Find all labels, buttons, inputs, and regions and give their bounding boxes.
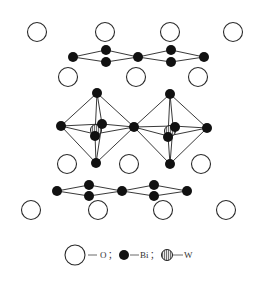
legend: O ； Bi ； W (65, 245, 193, 265)
oxygen-atom-icon (120, 155, 139, 174)
bismuth-atom-icon (165, 89, 175, 99)
bismuth-atom-icon (166, 45, 176, 55)
oxygen-atom-icon (89, 201, 108, 220)
oxygen-atom-icon (154, 201, 173, 220)
oxygen-row-second (59, 68, 208, 87)
bismuth-atom-icon (202, 123, 212, 133)
bismuth-atom-icon (101, 45, 111, 55)
bismuth-atom-icon (52, 186, 62, 196)
bismuth-atom-icon (165, 159, 175, 169)
bismuth-atom-icon (92, 88, 102, 98)
oxygen-atom-icon (192, 155, 211, 174)
bismuth-atom-icon (133, 52, 143, 62)
bismuth-atom-icon (166, 57, 176, 67)
legend-tungsten-label: W (184, 250, 193, 260)
legend-separator: ； (108, 250, 117, 260)
oxygen-atom-icon (189, 68, 208, 87)
bismuth-atom-icon (129, 122, 139, 132)
legend-bismuth-icon (119, 250, 129, 260)
bismuth-atom-icon (149, 191, 159, 201)
bismuth-atom-icon (182, 186, 192, 196)
oxygen-atom-icon (59, 68, 78, 87)
oxygen-row-top (28, 23, 243, 42)
oxygen-atom-icon (224, 23, 243, 42)
bismuth-atom-icon (97, 119, 107, 129)
bismuth-atom-icon (84, 180, 94, 190)
bismuth-atom-icon (170, 122, 180, 132)
oxygen-atom-icon (28, 23, 47, 42)
bismuth-atom-icon (56, 121, 66, 131)
bismuth-atom-icon (199, 52, 209, 62)
bismuth-atom-icon (90, 131, 100, 141)
bi-layer-bottom (52, 180, 192, 201)
legend-tungsten-icon (162, 250, 173, 261)
oxygen-atom-icon (217, 201, 236, 220)
legend-bismuth-label: Bi (140, 250, 149, 260)
bismuth-atom-icon (84, 191, 94, 201)
legend-oxygen-label: O (100, 250, 107, 260)
oxygen-atom-icon (58, 155, 77, 174)
legend-oxygen-icon (65, 245, 85, 265)
bismuth-atom-icon (91, 158, 101, 168)
bismuth-atom-icon (117, 186, 127, 196)
oxygen-row-bottom (22, 201, 236, 220)
oxygen-atom-icon (22, 201, 41, 220)
bismuth-atom-icon (149, 180, 159, 190)
oxygen-atom-icon (127, 68, 146, 87)
bismuth-atom-icon (101, 57, 111, 67)
bismuth-atom-icon (163, 132, 173, 142)
oxygen-atom-icon (96, 23, 115, 42)
bi-layer-top (68, 45, 209, 67)
oxygen-row-third (58, 155, 211, 174)
oxygen-atom-icon (161, 23, 180, 42)
bi2wo6-structure-diagram: O ； Bi ； W (0, 0, 258, 281)
bismuth-atom-icon (68, 52, 78, 62)
legend-separator: ； (150, 250, 159, 260)
